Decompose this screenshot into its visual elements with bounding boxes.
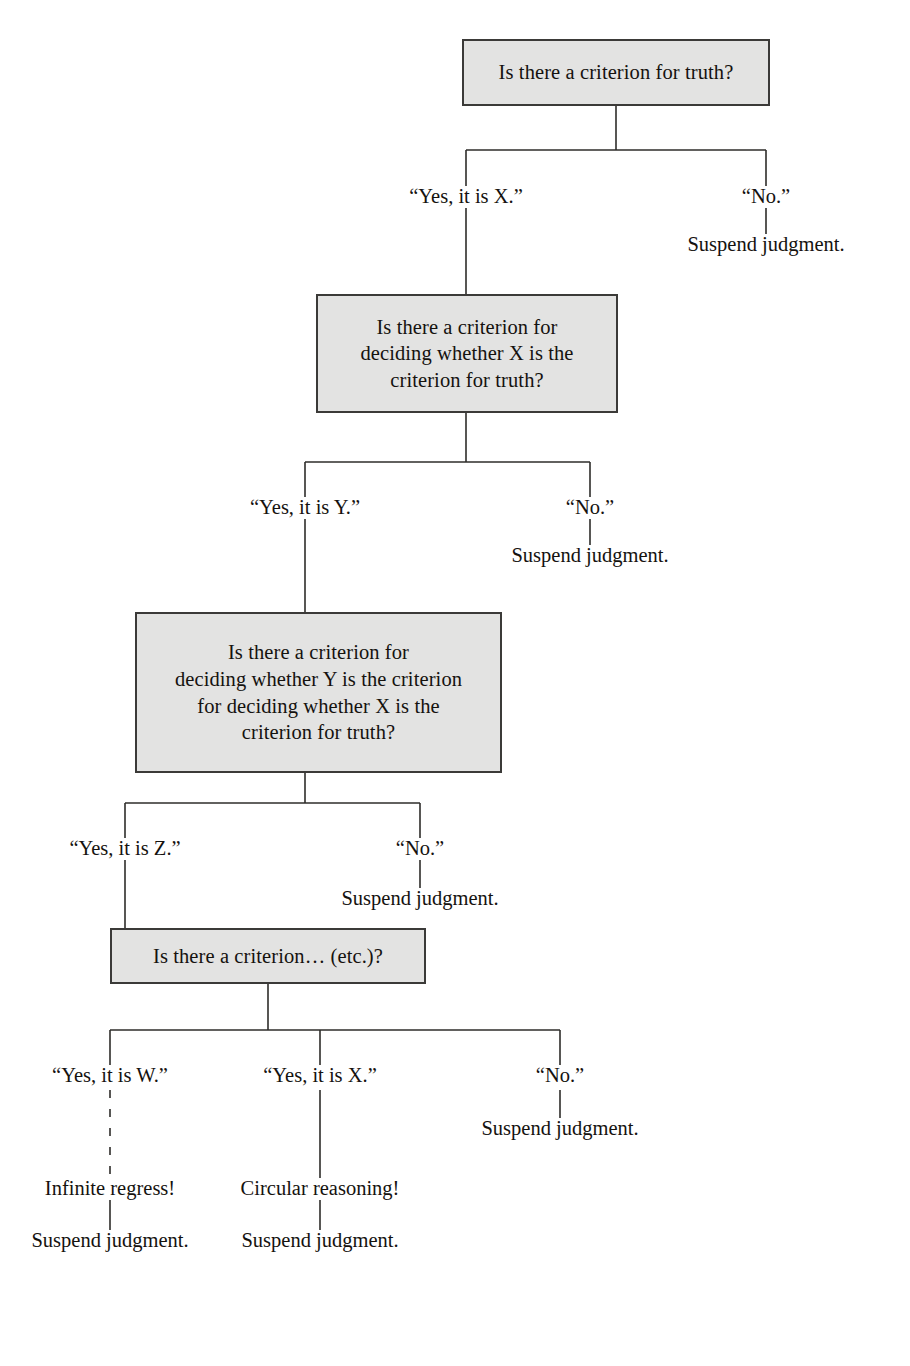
label-level1-yes: “Yes, it is X.” [409, 186, 523, 207]
label-level1-no-outcome: Suspend judgment. [687, 234, 844, 255]
label-level1-no: “No.” [742, 186, 790, 207]
node-box4-text: Is there a criterion… (etc.)? [120, 943, 416, 970]
label-level4-yes-x: “Yes, it is X.” [263, 1065, 377, 1086]
label-level3-yes: “Yes, it is Z.” [69, 838, 180, 859]
label-level3-no-outcome: Suspend judgment. [341, 888, 498, 909]
flowchart-canvas: Is there a criterion for truth? Is there… [0, 0, 910, 1366]
label-level2-no-outcome: Suspend judgment. [511, 545, 668, 566]
label-x-final-outcome: Suspend judgment. [241, 1230, 398, 1251]
label-level3-no: “No.” [396, 838, 444, 859]
label-level4-yes-w: “Yes, it is W.” [52, 1065, 168, 1086]
node-criterion-for-y[interactable]: Is there a criterion for deciding whethe… [135, 612, 502, 773]
node-criterion-for-x[interactable]: Is there a criterion for deciding whethe… [316, 294, 618, 413]
label-level2-yes: “Yes, it is Y.” [250, 497, 360, 518]
node-box2-text: Is there a criterion for deciding whethe… [326, 314, 608, 394]
label-circular-reasoning: Circular reasoning! [241, 1178, 400, 1199]
label-level4-no-outcome: Suspend judgment. [481, 1118, 638, 1139]
node-criterion-etc[interactable]: Is there a criterion… (etc.)? [110, 928, 426, 984]
label-level2-no: “No.” [566, 497, 614, 518]
node-box1-text: Is there a criterion for truth? [472, 59, 760, 86]
node-criterion-for-truth[interactable]: Is there a criterion for truth? [462, 39, 770, 106]
label-level4-no: “No.” [536, 1065, 584, 1086]
label-infinite-regress: Infinite regress! [45, 1178, 175, 1199]
label-w-final-outcome: Suspend judgment. [31, 1230, 188, 1251]
node-box3-text: Is there a criterion for deciding whethe… [145, 639, 492, 746]
